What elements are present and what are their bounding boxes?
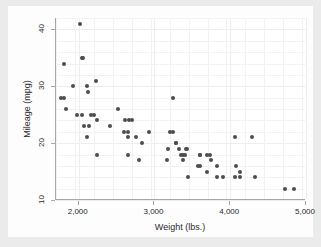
gridline-horizontal-minor — [56, 64, 305, 65]
gridline-horizontal-minor — [56, 189, 305, 190]
y-tick-label: 10 — [37, 192, 46, 208]
x-tick-mark — [78, 201, 79, 205]
scatter-point — [137, 158, 141, 162]
x-tick-label: 4,000 — [219, 207, 239, 216]
scatter-point — [95, 118, 99, 122]
scatter-point — [215, 175, 219, 179]
scatter-point — [123, 118, 127, 122]
scatter-point — [80, 56, 84, 60]
chart-screenshot: 2,0003,0004,0005,000 10203040 Weight (lb… — [0, 0, 321, 247]
x-axis-label: Weight (lbs.) — [55, 222, 305, 232]
scatter-point — [80, 113, 84, 117]
gridline-horizontal-minor — [56, 52, 305, 53]
gridline-horizontal — [56, 200, 305, 201]
scatter-point — [85, 84, 89, 88]
gridline-horizontal-minor — [56, 132, 305, 133]
scatter-point — [64, 107, 68, 111]
scatter-point — [233, 175, 237, 179]
gridline-horizontal-minor — [56, 98, 305, 99]
scatter-point — [238, 170, 242, 174]
scatter-point — [234, 164, 238, 168]
scatter-point — [183, 153, 187, 157]
scatter-point — [283, 187, 287, 191]
scatter-point — [215, 164, 219, 168]
scatter-point — [92, 113, 96, 117]
gridline-horizontal-minor — [56, 166, 305, 167]
plot-area — [55, 18, 305, 200]
y-tick-mark — [51, 86, 55, 87]
scatter-point — [86, 90, 90, 94]
y-tick-mark — [51, 29, 55, 30]
scatter-point — [62, 96, 66, 100]
scatter-point — [171, 130, 175, 134]
scatter-point — [82, 124, 86, 128]
gridline-horizontal-minor — [56, 120, 305, 121]
scatter-point — [177, 147, 181, 151]
scatter-point — [238, 175, 242, 179]
scatter-point — [185, 147, 189, 151]
scatter-point — [253, 175, 257, 179]
y-tick-label: 40 — [37, 21, 46, 37]
x-tick-label: 2,000 — [68, 207, 88, 216]
y-tick-label: 30 — [37, 78, 46, 94]
y-axis-label: Mileage (mpg) — [22, 80, 32, 138]
x-tick-label: 5,000 — [295, 207, 315, 216]
scatter-point — [250, 135, 254, 139]
scatter-point — [209, 158, 213, 162]
scatter-point — [85, 135, 89, 139]
scatter-point — [75, 113, 79, 117]
x-tick-mark — [229, 201, 230, 205]
scatter-point — [205, 170, 209, 174]
x-tick-mark — [153, 201, 154, 205]
x-tick-mark — [305, 201, 306, 205]
y-tick-label: 20 — [37, 135, 46, 151]
gridline-horizontal-minor — [56, 75, 305, 76]
scatter-point — [134, 135, 138, 139]
gridline-horizontal-minor — [56, 177, 305, 178]
scatter-point — [126, 130, 130, 134]
scatter-point — [196, 164, 200, 168]
scatter-point — [87, 124, 91, 128]
scatter-point — [233, 135, 237, 139]
scatter-point — [62, 62, 66, 66]
scatter-point — [221, 175, 225, 179]
scatter-point — [122, 130, 126, 134]
scatter-point — [174, 141, 178, 145]
gridline-vertical — [306, 18, 307, 199]
scatter-point — [181, 158, 185, 162]
scatter-point — [94, 79, 98, 83]
scatter-point — [78, 22, 82, 26]
y-tick-mark — [51, 143, 55, 144]
y-tick-mark — [51, 200, 55, 201]
x-tick-label: 3,000 — [143, 207, 163, 216]
scatter-point — [147, 130, 151, 134]
scatter-point — [95, 153, 99, 157]
gridline-horizontal-minor — [56, 109, 305, 110]
scatter-point — [130, 118, 134, 122]
scatter-point — [292, 187, 296, 191]
scatter-point — [166, 147, 170, 151]
scatter-point — [108, 124, 112, 128]
gridline-horizontal-minor — [56, 18, 305, 19]
scatter-point — [126, 153, 130, 157]
scatter-point — [198, 153, 202, 157]
gridline-horizontal-minor — [56, 41, 305, 42]
graph-region: 2,0003,0004,0005,000 10203040 Weight (lb… — [8, 6, 313, 237]
scatter-point — [116, 107, 120, 111]
scatter-point — [140, 141, 144, 145]
scatter-point — [126, 135, 130, 139]
scatter-point — [171, 96, 175, 100]
scatter-point — [208, 153, 212, 157]
